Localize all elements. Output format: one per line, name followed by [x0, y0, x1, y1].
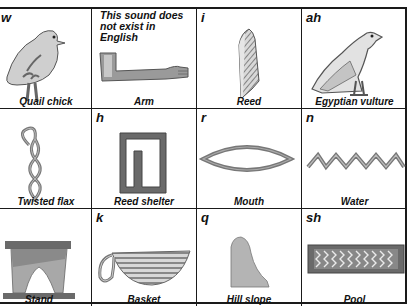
- cell-arm: This sound does not exist in English Arm: [91, 9, 196, 109]
- cell-reed-shelter: h Reed shelter: [91, 109, 196, 209]
- hill-slope-icon: [197, 209, 302, 306]
- cell-stand: Stand: [0, 209, 91, 306]
- cell-label: Egyptian vulture: [302, 96, 407, 107]
- cell-label: Basket: [92, 294, 196, 305]
- cell-label: Quail chick: [1, 96, 91, 107]
- cell-label: Reed: [197, 96, 301, 107]
- cell-water: n Water: [301, 109, 407, 209]
- water-icon: [302, 109, 408, 209]
- mouth-icon: [197, 109, 302, 209]
- cell-mouth: r Mouth: [196, 109, 301, 209]
- cell-label: Pool: [302, 294, 407, 305]
- cell-twisted-flax: Twisted flax: [0, 109, 91, 209]
- cell-basket: k Basket: [91, 209, 196, 306]
- quail-chick-icon: [0, 9, 92, 109]
- twisted-flax-icon: [0, 109, 92, 209]
- arm-icon: [92, 9, 197, 109]
- basket-icon: [92, 209, 197, 306]
- hieroglyph-grid: w Quail chick This sound does not exist …: [0, 7, 407, 304]
- cell-label: Arm: [92, 96, 196, 107]
- cell-egyptian-vulture: ah Egyptian vulture: [301, 9, 407, 109]
- reed-shelter-icon: [92, 109, 197, 209]
- cell-label: Twisted flax: [1, 196, 91, 207]
- stand-icon: [0, 209, 92, 306]
- pool-icon: [302, 209, 408, 306]
- cell-hill-slope: q Hill slope: [196, 209, 301, 306]
- cell-quail-chick: w Quail chick: [0, 9, 91, 109]
- reed-icon: [197, 9, 302, 109]
- vulture-icon: [302, 9, 408, 109]
- cell-label: Stand: [0, 294, 91, 305]
- cell-pool: sh Pool: [301, 209, 407, 306]
- cell-label: Reed shelter: [92, 196, 196, 207]
- cell-label: Hill slope: [197, 294, 301, 305]
- cell-reed: i Reed: [196, 9, 301, 109]
- cell-label: Mouth: [197, 196, 301, 207]
- cell-label: Water: [302, 196, 407, 207]
